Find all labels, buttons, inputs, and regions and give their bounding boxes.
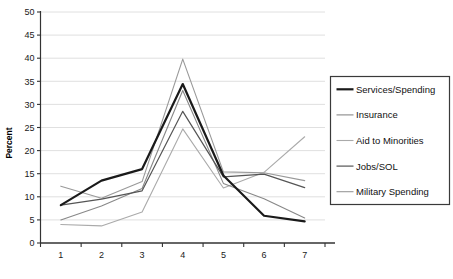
legend-item-label[interactable]: Aid to Minorities [356, 135, 424, 146]
y-axis-tick-label: 0 [29, 238, 34, 248]
line-chart: 05101520253035404550 1234567 Percent Ser… [0, 0, 453, 279]
x-axis-tick-label: 5 [221, 250, 226, 260]
legend: Services/SpendingInsuranceAid to Minorit… [331, 77, 450, 205]
y-axis-tick-label: 30 [24, 100, 34, 110]
y-axis-title: Percent [4, 127, 14, 158]
grid-lines [41, 12, 326, 220]
x-axis-tick-label: 4 [180, 250, 185, 260]
y-axis-label: Percent [4, 127, 14, 158]
x-axis-tick-label: 1 [58, 250, 63, 260]
y-axis-tick-label: 5 [29, 215, 34, 225]
y-axis-tick-label: 45 [24, 30, 34, 40]
y-axis-tick-label: 15 [24, 169, 34, 179]
x-axis-tick-label: 6 [262, 250, 267, 260]
x-axis-tick-label: 3 [140, 250, 145, 260]
legend-item-label[interactable]: Jobs/SOL [356, 161, 398, 172]
legend-item-label[interactable]: Military Spending [356, 186, 429, 197]
y-axis: 05101520253035404550 [24, 7, 40, 248]
y-axis-tick-label: 35 [24, 77, 34, 87]
x-axis-tick-label: 7 [302, 250, 307, 260]
legend-item-label[interactable]: Services/Spending [356, 84, 435, 95]
y-axis-tick-label: 25 [24, 123, 34, 133]
x-axis: 1234567 [41, 243, 336, 260]
y-axis-tick-label: 20 [24, 146, 34, 156]
y-axis-tick-label: 40 [24, 53, 34, 63]
series-line-aid-to-minorities [61, 129, 305, 226]
legend-item-label[interactable]: Insurance [356, 109, 398, 120]
data-series-group [61, 59, 305, 226]
x-axis-tick-label: 2 [99, 250, 104, 260]
chart-container: 05101520253035404550 1234567 Percent Ser… [0, 0, 453, 279]
y-axis-tick-label: 10 [24, 192, 34, 202]
series-line-jobs-sol [61, 111, 305, 205]
y-axis-tick-label: 50 [24, 7, 34, 17]
series-line-insurance [61, 91, 305, 220]
